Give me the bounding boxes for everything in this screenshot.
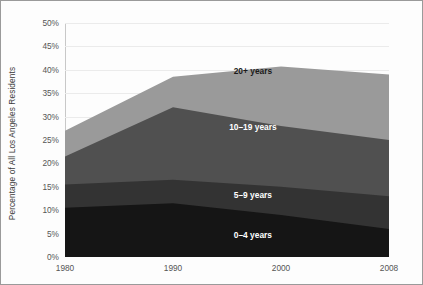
y-axis-tick-label: 35% [42, 88, 59, 98]
y-axis-tick-label: 5% [47, 229, 59, 239]
x-axis-tick-label: 2000 [272, 263, 290, 273]
y-axis-tick-label: 0% [47, 252, 59, 262]
y-axis-tick-label: 15% [42, 182, 59, 192]
x-axis-tick-label: 1980 [56, 263, 74, 273]
stacked-area-series [65, 23, 389, 257]
plot-area: 0%5%10%15%20%25%30%35%40%45%50% 19801990… [65, 23, 389, 257]
y-axis-tick-label: 40% [42, 65, 59, 75]
y-axis-title: Percentage of All Los Angeles Residents [1, 1, 23, 285]
y-axis-tick-label: 10% [42, 205, 59, 215]
y-axis-tick-label: 30% [42, 112, 59, 122]
y-axis-tick-label: 20% [42, 158, 59, 168]
chart-figure: Percentage of All Los Angeles Residents … [0, 0, 423, 285]
y-axis-tick-label: 45% [42, 41, 59, 51]
y-axis-tick-label: 25% [42, 135, 59, 145]
y-axis-tick-label: 50% [42, 18, 59, 28]
x-axis-tick-label: 2008 [380, 263, 398, 273]
x-axis-tick-label: 1990 [164, 263, 182, 273]
